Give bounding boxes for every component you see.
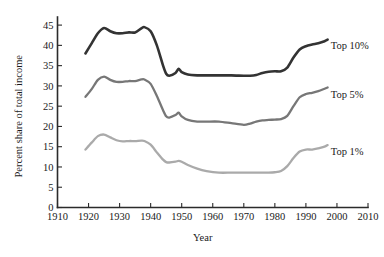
y-axis-ticks: 051015202530354045: [43, 20, 62, 213]
x-tick-label: 1990: [295, 211, 316, 222]
series-line-top-10: [85, 27, 327, 76]
x-tick-label: 1920: [78, 211, 99, 222]
x-tick-label: 2010: [358, 211, 379, 222]
y-tick-label: 10: [43, 162, 54, 173]
x-tick-label: 1940: [140, 211, 161, 222]
y-tick-label: 25: [43, 101, 54, 112]
series-lines: [85, 27, 327, 173]
series-line-top-5: [85, 77, 327, 125]
x-tick-label: 1950: [171, 211, 192, 222]
y-tick-label: 45: [43, 20, 54, 31]
series-label-top-5: Top 5%: [331, 89, 364, 100]
x-tick-label: 2000: [326, 211, 347, 222]
y-tick-label: 5: [48, 182, 53, 193]
series-line-top-1: [85, 135, 327, 173]
y-tick-label: 20: [43, 121, 54, 132]
x-axis-ticks: 1910192019301940195019601970198019902000…: [47, 203, 379, 222]
income-share-chart: 051015202530354045 191019201930194019501…: [0, 0, 384, 257]
y-tick-label: 40: [43, 40, 54, 51]
x-axis-title: Year: [193, 232, 213, 243]
x-tick-label: 1980: [264, 211, 285, 222]
x-tick-label: 1910: [47, 211, 68, 222]
x-tick-label: 1970: [233, 211, 254, 222]
chart-canvas: 051015202530354045 191019201930194019501…: [0, 0, 384, 257]
series-labels: Top 10%Top 5%Top 1%: [331, 40, 369, 157]
y-axis-title: Percent share of total income: [13, 55, 24, 178]
x-tick-label: 1930: [109, 211, 130, 222]
x-tick-label: 1960: [202, 211, 223, 222]
series-label-top-10: Top 10%: [331, 40, 369, 51]
y-tick-label: 30: [43, 81, 54, 92]
series-label-top-1: Top 1%: [331, 146, 364, 157]
y-tick-label: 15: [43, 141, 54, 152]
y-tick-label: 35: [43, 60, 54, 71]
